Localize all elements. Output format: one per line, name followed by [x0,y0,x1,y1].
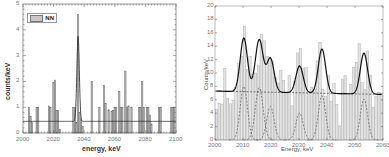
histogram-bar [91,81,92,133]
left-chart-panel: NN energy, keV counts/keV 20002020204020… [0,0,193,157]
x-tick-label: 2080 [138,136,151,142]
histogram-bar [116,107,117,133]
histogram-bar [333,83,335,140]
y-tick-label: 5 [16,0,19,6]
histogram-bar [350,84,352,140]
histogram-bar [341,80,343,140]
x-tick-label: 2050 [348,142,361,148]
histogram-bar [76,123,77,133]
histogram-bar [291,106,293,140]
histogram-bar [282,80,284,140]
histogram-bar [99,107,100,133]
histogram-bar [355,62,357,140]
histogram-bar [277,83,279,140]
histogram-bar [224,68,226,140]
histogram-bar [53,83,54,133]
histogram-bar [149,115,150,133]
y-tick-label: 2 [16,77,19,83]
right-chart-plot [193,0,386,157]
histogram-bar [299,48,301,140]
y-tick-label: 14 [207,42,214,48]
x-tick-label: 2000 [16,136,29,142]
histogram-bar [288,76,290,140]
y-tick-label: 2 [210,123,213,129]
histogram-bar [30,116,31,133]
histogram-bar [257,65,259,140]
histogram-bar [218,103,220,140]
x-tick-label: 2010 [236,142,249,148]
histogram-bar [143,107,144,133]
histogram-bar [158,107,159,133]
y-tick-label: 3 [16,52,19,58]
histogram-bar [378,92,380,140]
histogram-bar [338,126,340,140]
histogram-bar [171,107,172,133]
histogram-bar [347,94,349,140]
histogram-bar [336,104,338,140]
histogram-bar [128,106,129,133]
left-x-axis-label: energy, keV [82,145,121,152]
x-tick-label: 2000 [208,142,221,148]
y-tick-label: 12 [207,56,214,62]
x-tick-label: 2030 [292,142,305,148]
histogram-bar [271,61,273,140]
histogram-bar [31,123,32,133]
histogram-bar [364,90,366,140]
histogram-bar [48,106,49,133]
histogram-bar [285,93,287,140]
y-tick-label: 20 [207,2,214,8]
histogram-bar [352,68,354,140]
histogram-bar [28,107,29,133]
legend-label: NN [45,15,54,21]
y-tick-label: 10 [207,69,214,75]
histogram-bar [119,92,120,133]
histogram-bar [372,107,374,140]
histogram-bar [174,107,175,133]
histogram-bar [139,107,140,133]
histogram-bar [125,71,126,133]
y-tick-label: 0 [16,129,19,135]
histogram-bar [82,127,83,133]
histogram-bar [229,104,231,140]
histogram-bar [105,103,106,133]
histogram-bar [77,14,78,133]
histogram-bar [131,107,132,133]
y-tick-label: 4 [210,109,213,115]
histogram-bar [215,109,217,140]
histogram-bar [80,119,81,133]
histogram-bar [280,70,282,140]
y-tick-label: 4 [16,26,19,32]
x-tick-label: 2020 [47,136,60,142]
histogram-bar [221,104,223,140]
histogram-bar [324,96,326,140]
legend-swatch-icon [30,15,43,22]
left-chart-plot [0,0,193,157]
histogram-bar [380,94,382,140]
histogram-bar [148,107,149,133]
histogram-bar [142,81,143,133]
histogram-bar [120,107,121,133]
histogram-bar [226,98,228,140]
histogram-bar [126,107,127,133]
histogram-bar [344,76,346,140]
x-tick-label: 2060 [376,142,389,148]
histogram-bar [296,53,298,140]
histogram-bar [310,87,312,140]
left-y-axis-label: counts/keV [4,63,11,100]
histogram-bar [114,107,115,133]
histogram-bar [308,91,310,140]
y-tick-label: 1 [16,103,19,109]
histogram-bar [160,107,161,133]
histogram-bar [111,111,112,133]
histogram-bar [140,107,141,133]
y-tick-label: 0 [210,136,213,142]
x-tick-label: 2040 [320,142,333,148]
histogram-bar [305,68,307,140]
histogram-bar [73,107,74,133]
histogram-bar [38,107,39,133]
histogram-bar [172,107,173,133]
histogram-bar [232,100,234,140]
histogram-bar [330,101,332,140]
histogram-bar [36,107,37,133]
histogram-bar [50,107,51,133]
